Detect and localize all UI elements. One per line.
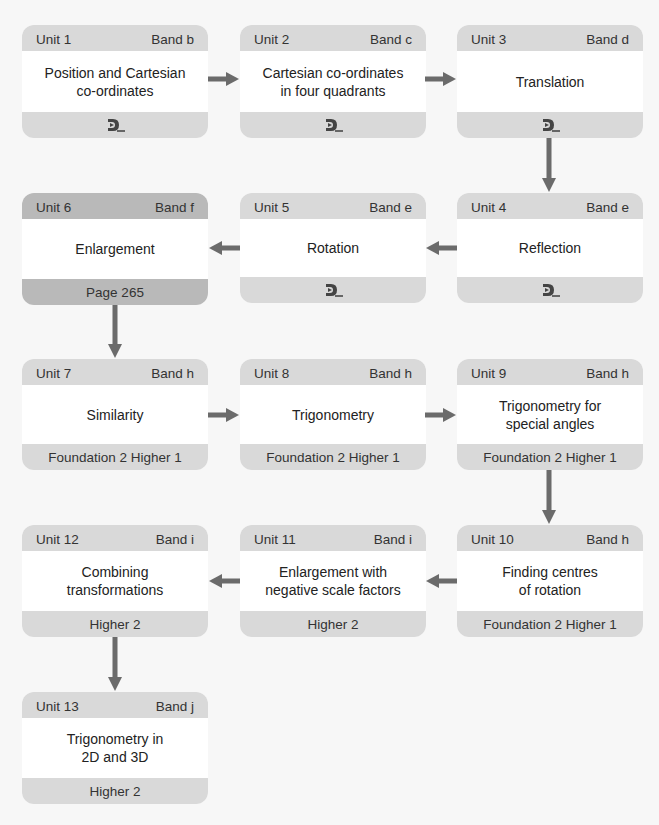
unit-title: Trigonometry	[240, 385, 426, 444]
unit-band: Band f	[155, 200, 194, 215]
unit-number: Unit 5	[254, 200, 289, 215]
unit-title: Rotation	[240, 219, 426, 277]
unit-band: Band i	[156, 532, 194, 547]
unit-title: Trigonometry for special angles	[457, 385, 643, 444]
unit-number: Unit 6	[36, 200, 71, 215]
unit-band: Band h	[369, 366, 412, 381]
unit-number: Unit 10	[471, 532, 514, 547]
unit-footer: Higher 2	[240, 611, 426, 637]
unit-band: Band j	[156, 699, 194, 714]
unit-number: Unit 13	[36, 699, 79, 714]
arrow-right-icon	[425, 407, 457, 423]
unit-band: Band b	[151, 32, 194, 47]
unit-title: Enlargement with negative scale factors	[240, 551, 426, 611]
arrow-right-icon	[425, 71, 457, 87]
unit-band: Band h	[586, 532, 629, 547]
unit-band: Band d	[586, 32, 629, 47]
unit-title: Reflection	[457, 219, 643, 277]
unit-number: Unit 7	[36, 366, 71, 381]
dl-logo-icon	[539, 117, 561, 133]
unit-title: Cartesian co-ordinates in four quadrants	[240, 51, 426, 112]
unit-number: Unit 8	[254, 366, 289, 381]
unit-title: Trigonometry in 2D and 3D	[22, 718, 208, 778]
unit-band: Band i	[374, 532, 412, 547]
unit-footer: Foundation 2 Higher 1	[22, 444, 208, 470]
dl-logo-icon	[322, 117, 344, 133]
arrow-left-icon	[425, 240, 457, 256]
unit-title: Combining transformations	[22, 551, 208, 611]
unit-number: Unit 2	[254, 32, 289, 47]
unit-number: Unit 11	[254, 532, 296, 547]
unit-footer: Page 265	[22, 279, 208, 305]
unit-title: Position and Cartesian co-ordinates	[22, 51, 208, 112]
unit-number: Unit 1	[36, 32, 71, 47]
unit-card-10: Unit 10Band h Finding centres of rotatio…	[457, 525, 643, 637]
unit-card-12: Unit 12Band i Combining transformations …	[22, 525, 208, 637]
unit-card-4: Unit 4Band e Reflection	[457, 193, 643, 303]
unit-number: Unit 12	[36, 532, 79, 547]
unit-title: Similarity	[22, 385, 208, 444]
unit-band: Band e	[369, 200, 412, 215]
unit-number: Unit 9	[471, 366, 506, 381]
unit-card-2: Unit 2Band c Cartesian co-ordinates in f…	[240, 25, 426, 138]
arrow-down-icon	[541, 138, 557, 193]
arrow-down-icon	[107, 305, 123, 359]
arrow-left-icon	[208, 573, 240, 589]
arrow-right-icon	[208, 71, 240, 87]
unit-title: Enlargement	[22, 219, 208, 279]
unit-band: Band c	[370, 32, 412, 47]
unit-footer: Foundation 2 Higher 1	[457, 611, 643, 637]
unit-number: Unit 4	[471, 200, 506, 215]
unit-band: Band h	[586, 366, 629, 381]
unit-card-13: Unit 13Band j Trigonometry in 2D and 3D …	[22, 692, 208, 804]
unit-card-6: Unit 6Band f Enlargement Page 265	[22, 193, 208, 305]
arrow-left-icon	[208, 240, 240, 256]
unit-title: Translation	[457, 51, 643, 112]
arrow-right-icon	[208, 407, 240, 423]
arrow-left-icon	[425, 573, 457, 589]
dl-logo-icon	[539, 282, 561, 298]
dl-logo-icon	[104, 117, 126, 133]
dl-logo-icon	[322, 282, 344, 298]
unit-band: Band e	[586, 200, 629, 215]
unit-card-3: Unit 3Band d Translation	[457, 25, 643, 138]
unit-footer: Higher 2	[22, 611, 208, 637]
unit-footer: Foundation 2 Higher 1	[240, 444, 426, 470]
unit-title: Finding centres of rotation	[457, 551, 643, 611]
unit-number: Unit 3	[471, 32, 506, 47]
unit-card-5: Unit 5Band e Rotation	[240, 193, 426, 303]
unit-card-7: Unit 7Band h Similarity Foundation 2 Hig…	[22, 359, 208, 470]
unit-band: Band h	[151, 366, 194, 381]
unit-card-8: Unit 8Band h Trigonometry Foundation 2 H…	[240, 359, 426, 470]
unit-card-11: Unit 11Band i Enlargement with negative …	[240, 525, 426, 637]
arrow-down-icon	[107, 637, 123, 692]
unit-card-1: Unit 1Band b Position and Cartesian co-o…	[22, 25, 208, 138]
unit-footer: Foundation 2 Higher 1	[457, 444, 643, 470]
unit-card-9: Unit 9Band h Trigonometry for special an…	[457, 359, 643, 470]
arrow-down-icon	[541, 470, 557, 525]
unit-footer: Higher 2	[22, 778, 208, 804]
